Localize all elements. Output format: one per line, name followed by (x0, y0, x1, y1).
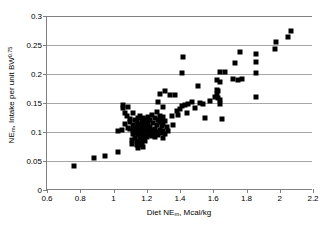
data-point (71, 164, 76, 169)
data-point (286, 35, 291, 40)
data-point (217, 98, 222, 103)
data-point (181, 54, 186, 59)
x-tick (313, 189, 314, 193)
x-tick (213, 189, 214, 193)
gridline (47, 161, 312, 162)
data-point (169, 113, 174, 118)
data-point (274, 40, 279, 45)
y-tick (43, 45, 47, 46)
scatter-plot-figure: 00.050.10.150.20.250.3 0.60.811.21.41.61… (0, 0, 324, 231)
y-tick (43, 16, 47, 17)
data-point (219, 117, 224, 122)
y-tick-label: 0.3 (31, 12, 42, 21)
data-point (202, 115, 207, 120)
data-point (222, 70, 227, 75)
x-tick-label: 1 (111, 194, 115, 203)
data-point (184, 110, 189, 115)
data-point (173, 92, 178, 97)
data-point (171, 123, 176, 128)
data-point (232, 60, 237, 65)
data-point (116, 149, 121, 154)
x-tick (47, 189, 48, 193)
x-tick (114, 189, 115, 193)
gridline (47, 132, 312, 133)
data-point (272, 47, 277, 52)
data-point (176, 112, 181, 117)
x-tick-label: 1.6 (208, 194, 219, 203)
y-tick-label: 0.1 (31, 128, 42, 137)
data-point (254, 70, 259, 75)
data-point (179, 71, 184, 76)
data-point (254, 59, 259, 64)
x-axis-title: Diet NEm, Mcal/kg (46, 208, 312, 217)
y-tick (43, 103, 47, 104)
data-point (217, 79, 222, 84)
data-point (254, 52, 259, 57)
y-axis-title: NEm, Intake per unit BW0.75 (5, 8, 19, 182)
data-point (216, 89, 221, 94)
data-point (239, 77, 244, 82)
y-tick-label: 0.25 (26, 41, 42, 50)
x-tick-label: 1.2 (141, 194, 152, 203)
data-point (254, 94, 259, 99)
x-tick (247, 189, 248, 193)
data-point (163, 118, 168, 123)
data-point (91, 155, 96, 160)
x-tick (180, 189, 181, 193)
data-point (201, 102, 206, 107)
x-tick (147, 189, 148, 193)
data-point (161, 105, 166, 110)
data-point (166, 129, 171, 134)
plot-area: 00.050.10.150.20.250.3 0.60.811.21.41.61… (46, 16, 312, 190)
y-tick (43, 132, 47, 133)
data-point (189, 99, 194, 104)
y-tick (43, 161, 47, 162)
x-tick-label: 0.8 (75, 194, 86, 203)
y-tick-label: 0.15 (26, 99, 42, 108)
data-point (196, 84, 201, 89)
x-tick-label: 0.6 (41, 194, 52, 203)
x-tick-label: 2 (278, 194, 282, 203)
gridline (47, 16, 312, 17)
data-point (192, 106, 197, 111)
data-point (103, 154, 108, 159)
x-tick (280, 189, 281, 193)
data-point (237, 49, 242, 54)
data-point (289, 28, 294, 33)
x-tick-label: 1.8 (241, 194, 252, 203)
x-tick-label: 2.2 (307, 194, 318, 203)
y-tick (43, 74, 47, 75)
data-point (126, 105, 131, 110)
x-tick (80, 189, 81, 193)
data-point (141, 144, 146, 149)
x-tick-label: 1.4 (174, 194, 185, 203)
y-tick-label: 0.2 (31, 70, 42, 79)
data-point (119, 128, 124, 133)
y-tick-label: 0.05 (26, 157, 42, 166)
